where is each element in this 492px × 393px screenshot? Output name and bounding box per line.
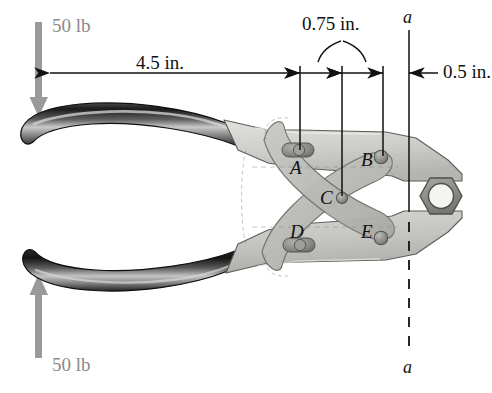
point-label-C: C <box>320 188 333 207</box>
point-label-B: B <box>361 150 373 169</box>
pin-B <box>374 150 388 164</box>
pliers-figure: 50 lb 50 lb 4.5 in. 0.75 in. 0.5 in. A B… <box>0 0 492 393</box>
point-label-D: D <box>290 222 304 241</box>
upper-handle <box>21 103 238 146</box>
force-arrow-bottom <box>30 274 49 358</box>
force-arrow-top <box>30 22 49 117</box>
section-label-top: a <box>403 8 412 26</box>
dim-label-4p5: 4.5 in. <box>130 53 190 72</box>
point-label-A: A <box>290 158 302 177</box>
force-label-top: 50 lb <box>52 16 91 35</box>
lower-handle <box>23 250 238 291</box>
pin-A <box>282 143 314 157</box>
figure-canvas <box>0 0 492 393</box>
point-label-E: E <box>361 222 373 241</box>
dim-label-0p75: 0.75 in. <box>302 14 360 33</box>
pin-E <box>374 231 388 245</box>
hex-nut <box>420 178 462 214</box>
dim-label-0p5: 0.5 in. <box>443 62 491 81</box>
section-label-bottom: a <box>403 358 412 376</box>
force-label-bottom: 50 lb <box>52 355 91 374</box>
